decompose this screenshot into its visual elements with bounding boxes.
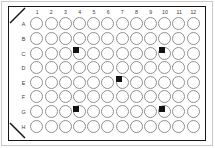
well-A6[interactable] <box>101 17 114 30</box>
well-C2[interactable] <box>45 47 58 60</box>
well-H4[interactable] <box>73 120 86 133</box>
well-F3[interactable] <box>59 90 72 103</box>
well-H1[interactable] <box>30 120 43 133</box>
well-B4[interactable] <box>73 32 86 45</box>
well-A7[interactable] <box>116 17 129 30</box>
well-G5[interactable] <box>87 105 100 118</box>
well-B5[interactable] <box>87 32 100 45</box>
well-A9[interactable] <box>144 17 157 30</box>
well-F7[interactable] <box>116 90 129 103</box>
well-G3[interactable] <box>59 105 72 118</box>
well-E4[interactable] <box>73 76 86 89</box>
well-G12[interactable] <box>187 105 200 118</box>
well-E12[interactable] <box>187 76 200 89</box>
well-F8[interactable] <box>130 90 143 103</box>
well-C3[interactable] <box>59 47 72 60</box>
well-B1[interactable] <box>30 32 43 45</box>
well-D10[interactable] <box>158 61 171 74</box>
well-A12[interactable] <box>187 17 200 30</box>
well-A8[interactable] <box>130 17 143 30</box>
well-A2[interactable] <box>45 17 58 30</box>
well-A10[interactable] <box>158 17 171 30</box>
well-H12[interactable] <box>187 120 200 133</box>
well-F1[interactable] <box>30 90 43 103</box>
well-G1[interactable] <box>30 105 43 118</box>
well-F10[interactable] <box>158 90 171 103</box>
well-E3[interactable] <box>59 76 72 89</box>
row-header-G: G <box>18 105 29 119</box>
well-A5[interactable] <box>87 17 100 30</box>
well-D11[interactable] <box>172 61 185 74</box>
well-H10[interactable] <box>158 120 171 133</box>
well-D12[interactable] <box>187 61 200 74</box>
well-D2[interactable] <box>45 61 58 74</box>
well-C12[interactable] <box>187 47 200 60</box>
well-B3[interactable] <box>59 32 72 45</box>
well-E2[interactable] <box>45 76 58 89</box>
well-F11[interactable] <box>172 90 185 103</box>
well-A4[interactable] <box>73 17 86 30</box>
well-F12[interactable] <box>187 90 200 103</box>
well-E11[interactable] <box>172 76 185 89</box>
well-D4[interactable] <box>73 61 86 74</box>
well-D8[interactable] <box>130 61 143 74</box>
well-E6[interactable] <box>101 76 114 89</box>
column-header-11: 11 <box>172 8 186 17</box>
well-H5[interactable] <box>87 120 100 133</box>
well-E1[interactable] <box>30 76 43 89</box>
well-C11[interactable] <box>172 47 185 60</box>
well-G9[interactable] <box>144 105 157 118</box>
well-H3[interactable] <box>59 120 72 133</box>
well-H9[interactable] <box>144 120 157 133</box>
well-H11[interactable] <box>172 120 185 133</box>
well-D6[interactable] <box>101 61 114 74</box>
well-F4[interactable] <box>73 90 86 103</box>
well-H6[interactable] <box>101 120 114 133</box>
well-D7[interactable] <box>116 61 129 74</box>
well-A11[interactable] <box>172 17 185 30</box>
well-C1[interactable] <box>30 47 43 60</box>
well-B8[interactable] <box>130 32 143 45</box>
well-G8[interactable] <box>130 105 143 118</box>
well-C8[interactable] <box>130 47 143 60</box>
row-header-C: C <box>18 47 29 61</box>
well-C6[interactable] <box>101 47 114 60</box>
well-B2[interactable] <box>45 32 58 45</box>
well-H7[interactable] <box>116 120 129 133</box>
well-G6[interactable] <box>101 105 114 118</box>
column-header-10: 10 <box>158 8 172 17</box>
well-D1[interactable] <box>30 61 43 74</box>
well-C5[interactable] <box>87 47 100 60</box>
well-A3[interactable] <box>59 17 72 30</box>
well-E8[interactable] <box>130 76 143 89</box>
well-G7[interactable] <box>116 105 129 118</box>
column-header-3: 3 <box>59 8 73 17</box>
well-B7[interactable] <box>116 32 129 45</box>
row-header-F: F <box>18 90 29 104</box>
well-F6[interactable] <box>101 90 114 103</box>
well-C7[interactable] <box>116 47 129 60</box>
well-D3[interactable] <box>59 61 72 74</box>
well-C9[interactable] <box>144 47 157 60</box>
well-D5[interactable] <box>87 61 100 74</box>
plate-marker-B3-C4 <box>73 47 79 53</box>
well-H2[interactable] <box>45 120 58 133</box>
well-A1[interactable] <box>30 17 43 30</box>
well-F2[interactable] <box>45 90 58 103</box>
well-H8[interactable] <box>130 120 143 133</box>
well-B10[interactable] <box>158 32 171 45</box>
microplate-figure: 123456789101112 ABCDEFGH <box>0 0 215 148</box>
well-E10[interactable] <box>158 76 171 89</box>
well-F5[interactable] <box>87 90 100 103</box>
well-B6[interactable] <box>101 32 114 45</box>
well-E5[interactable] <box>87 76 100 89</box>
well-E9[interactable] <box>144 76 157 89</box>
well-D9[interactable] <box>144 61 157 74</box>
well-B11[interactable] <box>172 32 185 45</box>
well-B12[interactable] <box>187 32 200 45</box>
well-F9[interactable] <box>144 90 157 103</box>
well-G2[interactable] <box>45 105 58 118</box>
well-G11[interactable] <box>172 105 185 118</box>
well-B9[interactable] <box>144 32 157 45</box>
row-header-E: E <box>18 76 29 90</box>
